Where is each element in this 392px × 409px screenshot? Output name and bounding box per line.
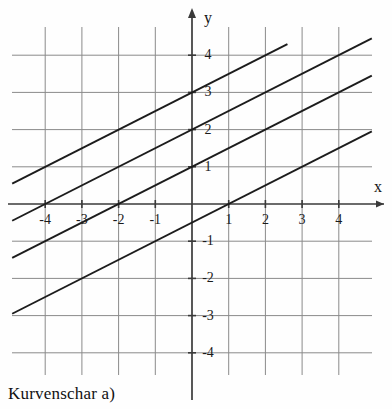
figure-caption: Kurvenschar a) bbox=[8, 384, 115, 404]
x-tick-label: -3 bbox=[76, 212, 88, 228]
x-axis-arrow bbox=[376, 201, 384, 208]
y-tick-label: -4 bbox=[202, 345, 214, 361]
y-tick-label: -3 bbox=[202, 308, 214, 324]
x-tick-label: 1 bbox=[225, 212, 232, 228]
x-tick-label: -2 bbox=[113, 212, 125, 228]
curve-line bbox=[12, 44, 287, 184]
y-tick-label: -1 bbox=[202, 233, 214, 249]
y-tick-label: -2 bbox=[202, 270, 214, 286]
coordinate-plot bbox=[0, 0, 392, 409]
y-tick-label: 1 bbox=[205, 159, 212, 175]
y-tick-label: 2 bbox=[205, 122, 212, 138]
x-axis-name: x bbox=[374, 178, 382, 196]
x-tick-label: -1 bbox=[149, 212, 161, 228]
y-axis-arrow bbox=[188, 8, 196, 18]
x-tick-label: 2 bbox=[262, 212, 269, 228]
y-tick-label: 4 bbox=[205, 47, 212, 63]
y-tick-label: 3 bbox=[205, 84, 212, 100]
figure-root: Kurvenschar a) -4-3-2-112344321-1-2-3-4y… bbox=[0, 0, 392, 409]
x-tick-label: 3 bbox=[299, 212, 306, 228]
x-tick-label: 4 bbox=[335, 212, 342, 228]
y-axis-name: y bbox=[204, 9, 212, 27]
x-tick-label: -4 bbox=[39, 212, 51, 228]
